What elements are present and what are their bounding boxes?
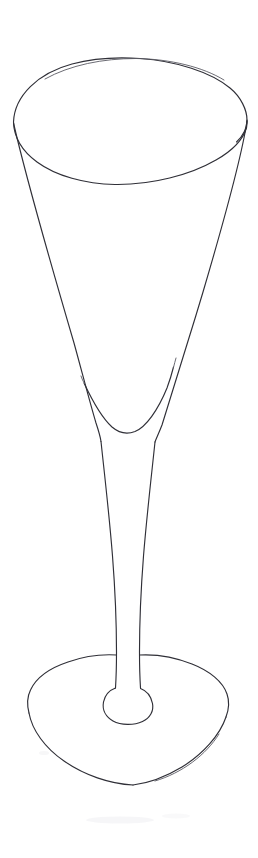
champagne-flute-illustration (0, 0, 258, 858)
drawing-canvas: Pencil line drawing of a tall champagne … (0, 0, 258, 858)
smudge-mark-3 (39, 751, 49, 755)
smudge-mark-2 (162, 814, 190, 819)
smudge-mark-1 (86, 817, 154, 824)
paper-background (0, 0, 258, 858)
